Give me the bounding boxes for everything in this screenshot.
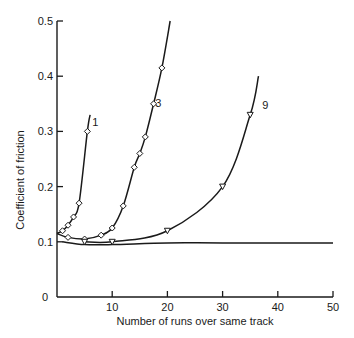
x-tick-label: 50 xyxy=(327,301,339,313)
y-tick-label: 0.4 xyxy=(38,70,53,82)
origin-label: 0 xyxy=(42,291,48,303)
marker-films-3 xyxy=(142,134,148,140)
marker-films-3 xyxy=(131,164,137,170)
x-tick-label: 30 xyxy=(216,301,228,313)
marker-films-9 xyxy=(247,112,253,118)
y-axis-title: Coefficient of friction xyxy=(14,130,26,229)
x-tick-label: 40 xyxy=(272,301,284,313)
x-tick-label: 10 xyxy=(106,301,118,313)
y-tick-label: 0.5 xyxy=(38,15,53,27)
series-label-1: 1 xyxy=(92,116,98,128)
curve-films-9 xyxy=(85,76,259,242)
marker-films-3 xyxy=(120,203,126,209)
marker-films-1 xyxy=(76,200,82,206)
y-ticks: 0.10.20.30.40.5 xyxy=(38,15,63,248)
series-labels: 139 xyxy=(92,97,268,128)
x-axis-title: Number of runs over same track xyxy=(116,315,274,327)
curve-films-3 xyxy=(57,21,170,239)
series-label-9: 9 xyxy=(262,99,268,111)
marker-films-3 xyxy=(137,150,143,156)
marker-films-3 xyxy=(159,65,165,71)
x-ticks: 1020304050 xyxy=(106,291,339,313)
marker-films-3 xyxy=(98,232,104,238)
x-tick-label: 20 xyxy=(161,301,173,313)
marker-films-3 xyxy=(65,234,71,240)
y-tick-label: 0.3 xyxy=(38,125,53,137)
series-label-3: 3 xyxy=(155,97,161,109)
friction-chart: 0.10.20.30.40.5 1020304050 139 0 Number … xyxy=(0,0,354,338)
series-curves xyxy=(57,21,333,245)
y-tick-label: 0.1 xyxy=(38,236,53,248)
marker-films-1 xyxy=(84,128,90,134)
y-tick-label: 0.2 xyxy=(38,181,53,193)
